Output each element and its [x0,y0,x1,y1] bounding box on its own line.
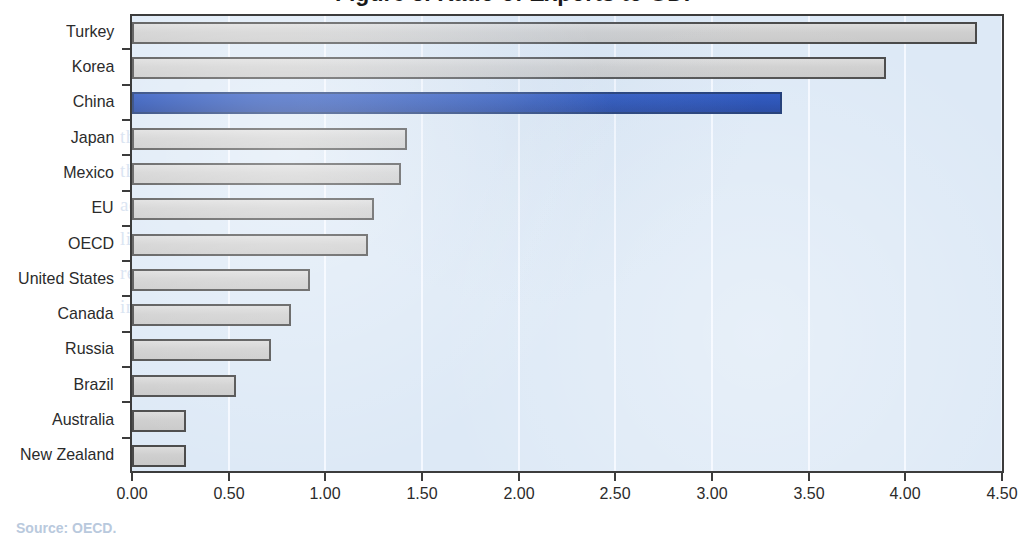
y-axis-tick [122,331,131,333]
bar-row [132,410,186,432]
x-axis-tick [518,473,520,481]
bar-turkey [132,22,977,44]
x-axis-label-3.00: 3.00 [696,484,727,504]
y-axis-label-china: China [72,92,114,112]
gridline [421,16,423,471]
bar-row [132,445,186,467]
y-axis-tick [122,366,131,368]
chart-title-text: Figure 3. Ratio of Exports to GDP [335,0,699,7]
bar-korea [132,57,886,79]
bar-australia [132,410,186,432]
bar-japan [132,128,407,150]
x-axis-tick [1001,473,1003,481]
x-axis-tick [904,473,906,481]
bar-russia [132,339,271,361]
x-axis-tick [711,473,713,481]
y-axis-tick [122,84,131,86]
gridline [711,16,713,471]
bar-chart: TurkeyKoreaChinaJapanMexicoEUOECDUnited … [0,0,1034,533]
x-axis-label-1.50: 1.50 [406,484,437,504]
x-axis-label-2.00: 2.00 [503,484,534,504]
bar-row [132,234,368,256]
y-axis-label-canada: Canada [58,304,114,324]
y-axis-label-turkey: Turkey [66,22,114,42]
bar-row [132,163,401,185]
y-axis-tick [122,225,131,227]
chart-title-cropped: Figure 3. Ratio of Exports to GDP [0,0,1034,12]
y-axis-tick [122,295,131,297]
x-axis-tick [228,473,230,481]
x-axis-label-2.50: 2.50 [600,484,631,504]
gridline [614,16,616,471]
gridline [518,16,520,471]
y-axis-label-eu: EU [92,198,114,218]
bar-row [132,269,310,291]
bar-row [132,375,236,397]
y-axis-tick [122,119,131,121]
x-axis-label-0.50: 0.50 [213,484,244,504]
x-axis-tick [131,473,133,481]
y-axis-label-japan: Japan [70,128,114,148]
bar-canada [132,304,291,326]
y-axis-label-united-states: United States [18,269,114,289]
y-axis-label-new-zealand: New Zealand [20,445,114,465]
bar-new-zealand [132,445,186,467]
y-axis-tick [122,154,131,156]
bar-brazil [132,375,236,397]
y-axis-tick [122,190,131,192]
y-axis-tick [122,48,131,50]
x-axis-label-4.00: 4.00 [890,484,921,504]
bar-united-states [132,269,310,291]
x-axis-tick [614,473,616,481]
plot-area [130,14,1004,473]
source-note: Source: OECD. [16,520,116,533]
y-axis-label-australia: Australia [52,410,114,430]
x-axis-label-3.50: 3.50 [793,484,824,504]
x-axis-tick [324,473,326,481]
bar-china [132,92,782,114]
bar-oecd [132,234,368,256]
bar-row [132,198,374,220]
y-axis-label-russia: Russia [65,339,114,359]
x-axis-label-0.00: 0.00 [116,484,147,504]
bar-row [132,304,291,326]
bar-mexico [132,163,401,185]
x-axis-tick [808,473,810,481]
y-axis-label-oecd: OECD [68,234,114,254]
bar-row [132,128,407,150]
y-axis-tick [122,260,131,262]
gridline [808,16,810,471]
y-axis-label-brazil: Brazil [74,375,114,395]
bar-row [132,339,271,361]
gridline [904,16,906,471]
x-axis-tick [421,473,423,481]
x-axis-label-4.50: 4.50 [986,484,1017,504]
y-axis-label-mexico: Mexico [63,163,114,183]
bar-row [132,92,782,114]
y-axis-labels: TurkeyKoreaChinaJapanMexicoEUOECDUnited … [0,14,122,473]
x-axis-label-1.00: 1.00 [310,484,341,504]
gridline [1001,16,1003,471]
y-axis-label-korea: Korea [71,57,114,77]
bar-row [132,22,977,44]
bar-row [132,57,886,79]
y-axis-tick [122,437,131,439]
bar-eu [132,198,374,220]
y-axis-tick [122,401,131,403]
